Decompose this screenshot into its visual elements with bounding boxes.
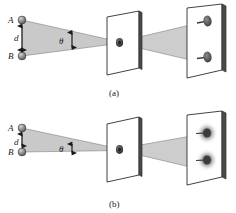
label-angle-b: θ: [59, 144, 64, 154]
middle-aperture-screen-b: [107, 117, 142, 182]
label-source-b-top: A: [7, 123, 14, 133]
label-angle-a: θ: [59, 36, 64, 46]
label-source-a-top: A: [7, 15, 14, 25]
source-point-b-top: [18, 124, 26, 132]
far-screen-thickness-edge-a: [222, 4, 226, 72]
far-screen-thickness-edge-b: [222, 111, 226, 179]
far-detection-screen-a: [187, 4, 226, 78]
pinhole-core-a: [118, 40, 121, 44]
pinhole-core-b: [118, 147, 121, 151]
label-separation-a: d: [14, 33, 19, 43]
screen-thickness-edge-b: [139, 117, 142, 177]
label-source-b-bottom: B: [8, 147, 14, 157]
middle-aperture-screen-a: [107, 11, 142, 75]
label-source-a-bottom: B: [8, 51, 14, 61]
source-point-b-bottom: [18, 148, 26, 156]
source-point-a-bottom: [18, 52, 26, 60]
label-separation-b: d: [14, 137, 19, 147]
source-point-a-top: [18, 16, 26, 24]
screen-thickness-edge-a: [139, 11, 142, 70]
caption-panel-b: (b): [109, 199, 120, 209]
caption-panel-a: (a): [109, 88, 119, 98]
two-source-resolution-figure: A B d θ (a): [0, 0, 236, 213]
far-detection-screen-b: [187, 111, 226, 185]
